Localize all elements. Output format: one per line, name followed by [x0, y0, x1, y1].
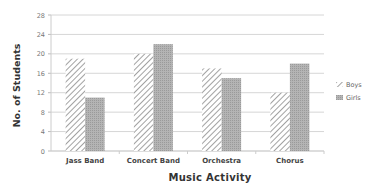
legend-label-boys: Boys: [346, 81, 362, 89]
bar-girls: [153, 44, 173, 151]
y-axis-label: No. of Students: [11, 36, 22, 136]
bar-girls: [85, 98, 105, 151]
x-tick-label: Chorus: [276, 157, 304, 165]
legend-label-girls: Girls: [346, 94, 361, 102]
y-tick-label: 12: [37, 89, 45, 97]
y-tick-label: 4: [41, 128, 45, 136]
bar-boys: [134, 54, 154, 151]
y-tick-label: 0: [41, 148, 45, 156]
y-tick-label: 20: [37, 50, 45, 58]
x-tick-label: Orchestra: [202, 157, 241, 165]
x-tick-label: Jass Band: [65, 157, 104, 165]
bar-girls: [222, 78, 242, 151]
bar-girls: [290, 64, 310, 151]
bar-boys: [66, 59, 86, 151]
x-tick-label: Concert Band: [127, 157, 180, 165]
plot-area: 0481216202428 Jass BandConcert BandOrche…: [0, 0, 370, 191]
x-axis-label: Music Activity: [150, 172, 270, 183]
y-axis-ticks: 0481216202428: [37, 12, 51, 156]
legend-item-girls: Girls: [336, 91, 362, 104]
girls-swatch-icon: [336, 95, 343, 100]
y-tick-label: 16: [37, 70, 45, 78]
bars: [66, 44, 310, 151]
legend-item-boys: Boys: [336, 78, 362, 91]
x-axis-ticks: Jass BandConcert BandOrchestraChorus: [65, 151, 324, 165]
y-tick-label: 8: [41, 109, 45, 117]
y-tick-label: 28: [37, 12, 45, 20]
bar-boys: [270, 93, 290, 151]
legend: Boys Girls: [336, 78, 362, 104]
bar-boys: [202, 68, 222, 151]
boys-swatch-icon: [336, 82, 343, 87]
bar-chart: 0481216202428 Jass BandConcert BandOrche…: [0, 0, 370, 191]
y-tick-label: 24: [37, 31, 45, 39]
